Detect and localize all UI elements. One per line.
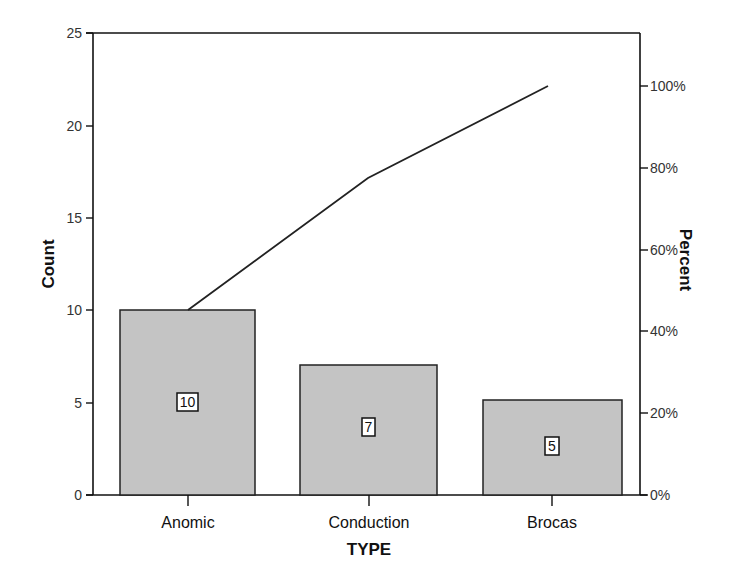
- ytick-label-20: 20: [66, 118, 82, 134]
- x-tick-labels: Anomic Conduction Brocas: [161, 514, 577, 531]
- data-label-brocas: 5: [548, 438, 556, 454]
- y2tick-label-0: 0%: [650, 487, 670, 503]
- y2tick-label-40: 40%: [650, 323, 678, 339]
- x-axis-title: TYPE: [347, 540, 391, 559]
- cumulative-percent-line: [188, 86, 548, 310]
- left-y-tick-labels: 0 5 10 15 20 25: [66, 25, 82, 503]
- xtick-label-anomic: Anomic: [161, 514, 214, 531]
- ytick-label-15: 15: [66, 210, 82, 226]
- pareto-chart: 0 5 10 15 20 25 0% 20% 40% 60% 80% 100% …: [0, 0, 735, 576]
- xtick-label-brocas: Brocas: [527, 514, 577, 531]
- ytick-label-5: 5: [74, 395, 82, 411]
- left-y-axis-title: Count: [39, 239, 58, 288]
- ytick-label-0: 0: [74, 487, 82, 503]
- data-label-anomic: 10: [180, 394, 196, 410]
- xtick-label-conduction: Conduction: [329, 514, 410, 531]
- ytick-label-10: 10: [66, 302, 82, 318]
- right-y-ticks: [640, 86, 648, 495]
- y2tick-label-20: 20%: [650, 405, 678, 421]
- y2tick-label-100: 100%: [650, 78, 686, 94]
- left-y-ticks: [86, 33, 93, 495]
- ytick-label-25: 25: [66, 25, 82, 41]
- x-ticks: [188, 495, 552, 506]
- y2tick-label-80: 80%: [650, 160, 678, 176]
- data-label-conduction: 7: [365, 419, 373, 435]
- right-y-axis-title: Percent: [676, 229, 695, 292]
- y2tick-label-60: 60%: [650, 242, 678, 258]
